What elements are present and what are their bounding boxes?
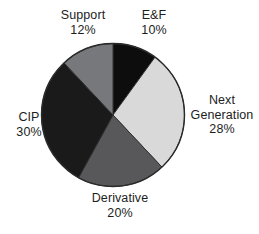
pie-slice-group bbox=[41, 44, 184, 187]
pie-label-support-name: Support bbox=[44, 8, 122, 23]
pie-label-support-value: 12% bbox=[44, 23, 122, 38]
pie-label-next-generation-name-line2: Generation bbox=[186, 108, 258, 123]
pie-label-ef-value: 10% bbox=[126, 23, 182, 38]
pie-label-next-generation-name-line1: Next bbox=[186, 93, 258, 108]
pie-label-cip-name: CIP bbox=[2, 110, 56, 125]
pie-label-derivative-name: Derivative bbox=[74, 191, 166, 206]
pie-label-derivative-value: 20% bbox=[74, 206, 166, 221]
pie-label-ef: E&F 10% bbox=[126, 8, 182, 37]
pie-label-next-generation-value: 28% bbox=[186, 122, 258, 137]
pie-chart-figure: Support 12% E&F 10% Next Generation 28% … bbox=[0, 0, 259, 234]
pie-label-cip: CIP 30% bbox=[2, 110, 56, 139]
pie-label-derivative: Derivative 20% bbox=[74, 191, 166, 220]
pie-label-support: Support 12% bbox=[44, 8, 122, 37]
pie-label-next-generation: Next Generation 28% bbox=[186, 93, 258, 137]
pie-label-ef-name: E&F bbox=[126, 8, 182, 23]
pie-label-cip-value: 30% bbox=[2, 125, 56, 140]
